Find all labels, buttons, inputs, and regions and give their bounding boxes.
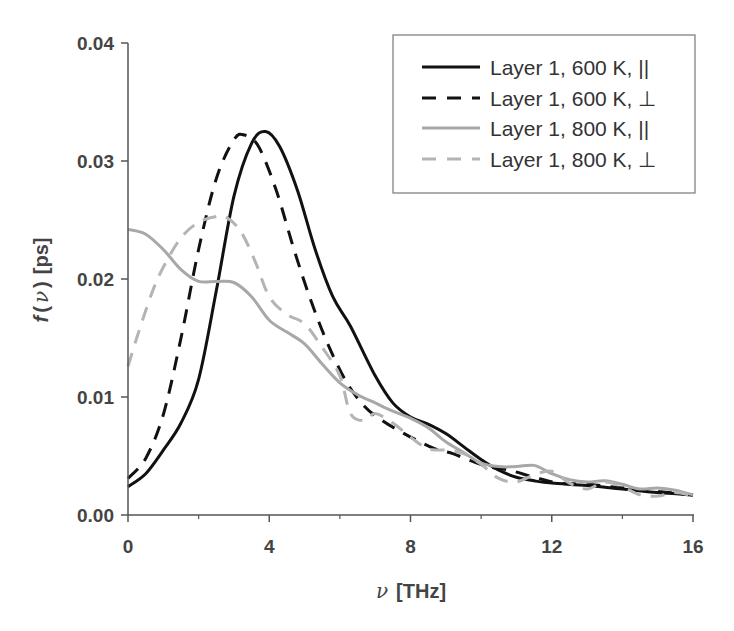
x-axis-symbol: ν — [376, 579, 388, 603]
series-line-3 — [128, 216, 693, 497]
series-line-2 — [128, 229, 693, 495]
x-tick-label: 8 — [405, 536, 416, 557]
legend: Layer 1, 600 K, || Layer 1, 600 K, ⊥ Lay… — [393, 35, 695, 193]
y-axis-unit: [ps] — [30, 238, 52, 275]
y-tick-label: 0.02 — [77, 269, 114, 290]
y-axis-symbol: ν — [29, 291, 53, 303]
legend-label: Layer 1, 600 K, ⊥ — [490, 87, 656, 110]
x-axis-title: ν[THz] — [376, 579, 446, 603]
y-tick-label: 0.00 — [77, 505, 114, 526]
y-axis-title: f(ν)[ps] — [29, 238, 53, 323]
x-tick-label: 12 — [541, 536, 562, 557]
y-tick-label: 0.04 — [77, 33, 114, 54]
x-tick-label: 4 — [264, 536, 275, 557]
legend-label: Layer 1, 800 K, ⊥ — [490, 148, 656, 171]
x-ticks: 0481216 — [123, 515, 704, 557]
y-tick-label: 0.01 — [77, 387, 114, 408]
y-tick-label: 0.03 — [77, 151, 114, 172]
x-axis-unit: [THz] — [396, 580, 446, 602]
y-ticks: 0.000.010.020.030.04 — [77, 33, 128, 526]
x-tick-label: 0 — [123, 536, 134, 557]
y-axis-func: f — [30, 313, 52, 322]
legend-label: Layer 1, 600 K, || — [490, 56, 649, 79]
chart: 0.000.010.020.030.04 0481216 ν[THz] f(ν)… — [0, 0, 734, 631]
x-tick-label: 16 — [682, 536, 703, 557]
legend-label: Layer 1, 800 K, || — [490, 117, 649, 140]
